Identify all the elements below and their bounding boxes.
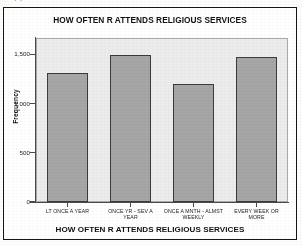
x-axis-tick: [67, 203, 68, 207]
scan-top-edge-fragment: · ·: [0, 0, 302, 7]
x-axis-tick: [193, 203, 194, 207]
y-axis-tick: [30, 201, 36, 202]
y-axis-tick-label: 1,000: [4, 100, 30, 107]
y-axis-title: Frequency: [12, 77, 19, 137]
bar: [173, 84, 214, 202]
y-axis-tick-label: 0: [4, 198, 30, 205]
bar: [110, 55, 151, 202]
y-axis-tick: [30, 103, 36, 104]
x-axis-category-label-line: YEAR: [99, 214, 162, 220]
y-axis-tick-label: 500: [4, 149, 30, 156]
x-axis-tick: [256, 203, 257, 207]
bar: [236, 57, 277, 202]
y-axis-tick: [30, 54, 36, 55]
chart-title: HOW OFTEN R ATTENDS RELIGIOUS SERVICES: [4, 15, 296, 25]
chart-figure-frame: HOW OFTEN R ATTENDS RELIGIOUS SERVICES F…: [3, 7, 297, 240]
x-axis-tick: [130, 203, 131, 207]
bar: [47, 73, 88, 202]
y-axis-tick-label: 1,500: [4, 50, 30, 57]
x-axis-category-label-line: WEEKLY: [162, 214, 225, 220]
x-axis-category-label: ONCE A MNTH - ALMSTWEEKLY: [162, 208, 225, 221]
scanned-page: · · HOW OFTEN R ATTENDS RELIGIOUS SERVIC…: [0, 0, 302, 245]
x-axis-category-label: ONCE YR - SEV AYEAR: [99, 208, 162, 221]
x-axis-category-label-line: MORE: [225, 214, 288, 220]
y-axis-line: [35, 37, 36, 203]
y-axis-tick: [30, 152, 36, 153]
x-axis-category-label-line: LT ONCE A YEAR: [36, 208, 99, 214]
x-axis-category-label: EVERY WEEK ORMORE: [225, 208, 288, 221]
x-axis-line: [35, 202, 289, 203]
x-axis-title: HOW OFTEN R ATTENDS RELIGIOUS SERVICES: [4, 225, 296, 234]
x-axis-category-label: LT ONCE A YEAR: [36, 208, 99, 214]
